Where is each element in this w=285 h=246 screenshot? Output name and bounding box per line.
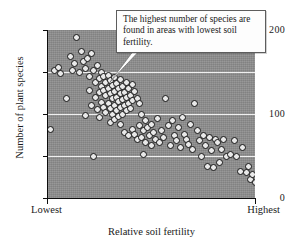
scatter-plot-figure: 200 100 0 Number of plant species Relati… — [0, 0, 285, 246]
data-point — [140, 151, 147, 158]
y-axis-tick-150 — [43, 72, 48, 73]
x-axis-label-lowest: Lowest — [31, 204, 62, 215]
data-point — [90, 153, 97, 160]
data-point — [73, 34, 80, 41]
data-point — [148, 121, 155, 128]
data-point — [160, 134, 167, 141]
data-point — [169, 117, 176, 124]
data-point — [117, 121, 124, 128]
y-axis-tick-100 — [43, 114, 48, 115]
data-point — [252, 179, 256, 186]
data-point — [131, 88, 138, 95]
data-point — [148, 142, 155, 149]
data-point — [249, 171, 255, 178]
data-point — [82, 65, 89, 72]
y-axis-tick-50 — [43, 156, 48, 157]
x-axis-label-highest: Highest — [247, 204, 280, 215]
data-point — [245, 163, 252, 170]
data-point — [63, 95, 70, 102]
data-point — [216, 159, 223, 166]
data-point — [233, 153, 240, 160]
x-axis-title: Relative soil fertility — [48, 226, 255, 237]
data-point — [220, 136, 227, 143]
data-point — [162, 95, 169, 102]
data-point — [187, 121, 194, 128]
data-point — [154, 115, 161, 122]
callout-annotation: The highest number of species are found … — [116, 10, 266, 53]
gridline-100 — [48, 114, 255, 115]
data-point — [167, 142, 174, 149]
x-axis-line — [47, 198, 256, 199]
data-point — [208, 147, 215, 154]
data-point — [88, 50, 95, 57]
y-axis-title: Number of plant species — [14, 33, 25, 183]
data-point — [239, 144, 246, 151]
data-point — [94, 62, 101, 69]
data-point — [210, 164, 217, 171]
data-point — [48, 126, 54, 133]
data-point — [57, 70, 64, 77]
data-point — [71, 60, 78, 67]
data-point — [82, 112, 89, 119]
data-point — [177, 144, 184, 151]
data-point — [150, 129, 157, 136]
plot-area — [48, 30, 255, 198]
data-point — [78, 48, 85, 55]
y-axis-tick-200 — [43, 30, 48, 31]
data-point — [136, 100, 143, 107]
data-point — [127, 105, 134, 112]
data-point — [179, 114, 186, 121]
data-point — [231, 137, 238, 144]
data-point — [86, 87, 93, 94]
data-point — [175, 124, 182, 131]
y-tick-label-100: 100 — [243, 109, 285, 119]
data-point — [198, 153, 205, 160]
data-point — [189, 146, 196, 153]
data-point — [129, 81, 136, 88]
data-point — [191, 100, 198, 107]
data-point — [218, 146, 225, 153]
y-tick-label-0: 0 — [243, 193, 285, 203]
